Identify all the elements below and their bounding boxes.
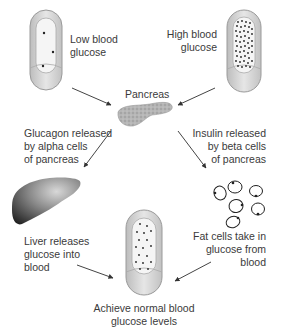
high-glucose-vessel-icon [227, 10, 261, 92]
fat-cells-label: Fat cells take in glucose from blood [193, 230, 266, 269]
normal-glucose-vessel-icon [126, 210, 162, 295]
liver-label: Liver releases glucose into blood [24, 235, 89, 274]
high-glucose-label: High blood glucose [167, 28, 217, 54]
arrow-low-to-pancreas [72, 88, 111, 105]
pancreas-label: Pancreas [125, 88, 169, 101]
insulin-label: Insulin released by beta cells of pancre… [192, 127, 266, 166]
low-glucose-label: Low blood glucose [70, 33, 118, 59]
pancreas-icon [118, 102, 172, 126]
liver-icon [12, 178, 81, 225]
low-glucose-vessel-icon [30, 10, 62, 90]
arrow-high-to-pancreas [178, 88, 215, 105]
normal-glucose-label: Achieve normal blood glucose levels [84, 302, 204, 328]
fat-cells-icon [212, 181, 265, 230]
glucagon-label: Glucagon released by alpha cells of panc… [24, 127, 112, 166]
